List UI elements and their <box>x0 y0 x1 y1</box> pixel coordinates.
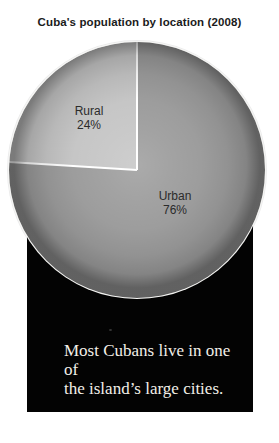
chart-title: Cuba's population by location (2008) <box>0 16 279 28</box>
rural-slice-label: Rural 24% <box>47 104 131 132</box>
urban-slice-label: Urban 76% <box>133 189 217 217</box>
urban-label: Urban <box>133 189 217 203</box>
rural-label: Rural <box>47 104 131 118</box>
urban-percent: 76% <box>133 203 217 217</box>
pie-shading <box>9 42 265 298</box>
pie-chart: Rural 24% Urban 76% <box>8 41 266 299</box>
caption-text: Most Cubans live in one of the island’s … <box>64 341 242 398</box>
print-speck <box>109 329 112 331</box>
infographic-page: Cuba's population by location (2008) Mos… <box>0 0 279 443</box>
rural-percent: 24% <box>47 118 131 132</box>
caption-line-2: the island’s large cities. <box>64 379 223 398</box>
caption-line-1: Most Cubans live in one of <box>64 341 230 379</box>
